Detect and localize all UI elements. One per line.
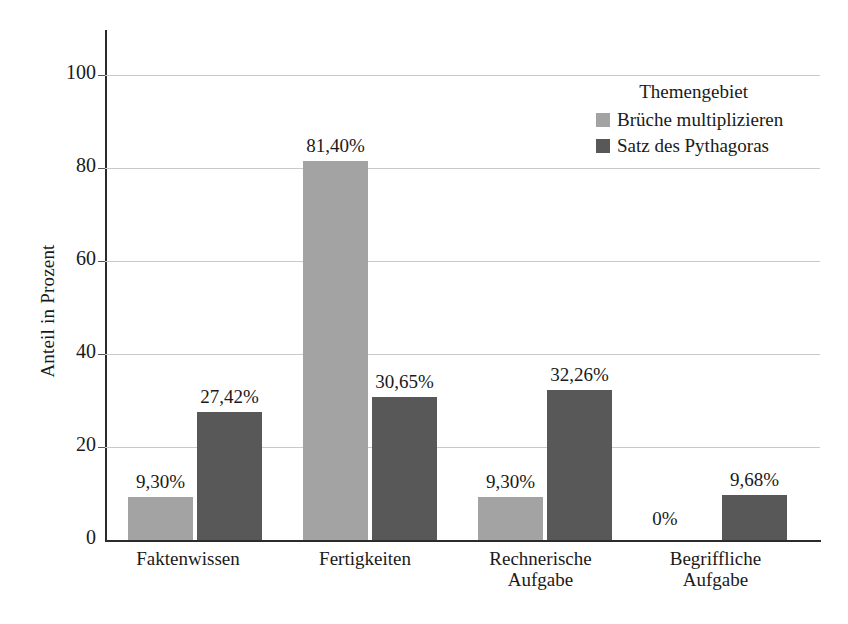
x-category-label-faktenwissen: Faktenwissen: [108, 548, 268, 569]
bar-fertigkeiten-bruche: [303, 161, 368, 540]
x-category-line: Rechnerische: [458, 548, 623, 569]
y-tick-label-80: 80: [46, 155, 96, 175]
y-tick-label-40: 40: [46, 341, 96, 361]
x-category-label-begriffliche-aufgabe: Begriffliche Aufgabe: [633, 548, 798, 591]
bar-value-rechnerische-bruche: 9,30%: [463, 472, 558, 491]
gridline-80: [105, 168, 820, 169]
x-category-line: Aufgabe: [633, 569, 798, 590]
legend: Themengebiet Brüche multiplizieren Satz …: [596, 82, 783, 162]
bar-value-faktenwissen-pythagoras: 27,42%: [177, 387, 282, 406]
y-tick-label-100: 100: [46, 62, 96, 82]
x-category-label-fertigkeiten: Fertigkeiten: [285, 548, 445, 569]
legend-swatch-icon-pythagoras: [596, 139, 610, 153]
bar-value-fertigkeiten-bruche: 81,40%: [283, 136, 388, 155]
tick-mark-60: [98, 261, 105, 262]
tick-mark-100: [98, 75, 105, 76]
x-axis-line: [105, 540, 821, 542]
legend-item-label: Satz des Pythagoras: [617, 136, 769, 155]
bar-fertigkeiten-pythagoras: [372, 397, 437, 540]
bar-faktenwissen-pythagoras: [197, 412, 262, 540]
bar-value-fertigkeiten-pythagoras: 30,65%: [352, 372, 457, 391]
y-tick-label-60: 60: [46, 248, 96, 268]
bar-rechnerische-pythagoras: [547, 390, 612, 540]
y-axis-title: Anteil in Prozent: [37, 201, 59, 421]
x-category-line: Begriffliche: [633, 548, 798, 569]
x-category-line: Aufgabe: [458, 569, 623, 590]
bar-chart: Anteil in Prozent 0 20 40 60 80 100 9,30…: [0, 0, 848, 624]
legend-title: Themengebiet: [596, 82, 783, 101]
bar-value-begriffliche-pythagoras: 9,68%: [702, 470, 807, 489]
y-tick-label-20: 20: [46, 434, 96, 454]
bar-begriffliche-pythagoras: [722, 495, 787, 540]
tick-mark-80: [98, 168, 105, 169]
tick-mark-20: [98, 447, 105, 448]
legend-item-label: Brüche multiplizieren: [617, 110, 783, 129]
bar-rechnerische-bruche: [478, 497, 543, 540]
x-category-line: Fertigkeiten: [285, 548, 445, 569]
bar-value-faktenwissen-bruche: 9,30%: [113, 472, 208, 491]
x-category-label-rechnerische-aufgabe: Rechnerische Aufgabe: [458, 548, 623, 591]
y-tick-label-0: 0: [46, 527, 96, 547]
bar-value-begriffliche-bruche: 0%: [630, 509, 700, 528]
legend-item-satz-des-pythagoras: Satz des Pythagoras: [596, 136, 783, 155]
bar-value-rechnerische-pythagoras: 32,26%: [527, 365, 632, 384]
tick-mark-40: [98, 354, 105, 355]
x-category-line: Faktenwissen: [108, 548, 268, 569]
legend-swatch-icon-bruche: [596, 113, 610, 127]
gridline-40: [105, 354, 820, 355]
bar-faktenwissen-bruche: [128, 497, 193, 540]
legend-item-bruche-multiplizieren: Brüche multiplizieren: [596, 110, 783, 129]
gridline-60: [105, 261, 820, 262]
gridline-100: [105, 75, 820, 76]
